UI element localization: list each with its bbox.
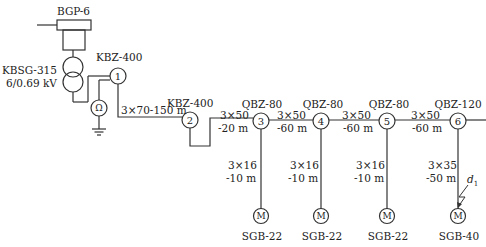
feed-cable-5-b: -60 m (343, 123, 373, 134)
transformer-voltage: 6/0.69 kV (6, 78, 57, 89)
feed-cable-3-b: -20 m (218, 123, 248, 134)
source-label: BGP-6 (57, 6, 90, 17)
switch-6-label: QBZ-120 (434, 99, 481, 110)
branch-cable-5-b: -10 m (354, 173, 384, 184)
fault-label: d1 (467, 174, 478, 190)
switch-2-label: KBZ-400 (167, 98, 213, 109)
switch-4-label: QBZ-80 (303, 99, 344, 110)
feed-cable-4-a: 3×50 (277, 110, 306, 121)
leak-relay-symbol: Ω (95, 103, 102, 113)
ground-icon (92, 129, 106, 135)
transformer-model: KBSG-315 (2, 65, 57, 76)
switch-5-label: QBZ-80 (369, 99, 410, 110)
branch-cable-3-b: -10 m (226, 173, 256, 184)
motor-6-symbol: M (453, 211, 462, 221)
feed-cable-3-a: 3×50 (220, 110, 249, 121)
node-1-number: 1 (115, 71, 121, 82)
feed-cable-6-a: 3×50 (411, 110, 440, 121)
node-5-number: 5 (384, 116, 390, 127)
branch-cable-6-a: 3×35 (428, 160, 457, 171)
motor-4-label: SGB-22 (302, 231, 342, 242)
branch-cable-3-a: 3×16 (228, 160, 257, 171)
branch-cable-4-b: -10 m (288, 173, 318, 184)
feed-cable-5-a: 3×50 (342, 110, 371, 121)
branch-cable-5-a: 3×16 (356, 160, 385, 171)
node-2-number: 2 (187, 115, 193, 126)
branch-cable-6-b: -50 m (426, 173, 456, 184)
node-4-number: 4 (318, 116, 324, 127)
feed-cable-4-b: -60 m (277, 123, 307, 134)
motor-5-label: SGB-22 (368, 231, 408, 242)
motor-5-symbol: M (382, 211, 391, 221)
node-3-number: 3 (258, 116, 264, 127)
motor-6-label: SGB-40 (439, 231, 479, 242)
motor-3-symbol: M (256, 211, 265, 221)
motor-3-label: SGB-22 (242, 231, 282, 242)
branch-cable-4-a: 3×16 (290, 160, 319, 171)
motor-4-symbol: M (316, 211, 325, 221)
switch-1-label: KBZ-400 (96, 52, 142, 63)
bgp6-switchgear (37, 20, 91, 57)
feed-cable-6-b: -60 m (412, 123, 442, 134)
node-6-number: 6 (455, 116, 461, 127)
